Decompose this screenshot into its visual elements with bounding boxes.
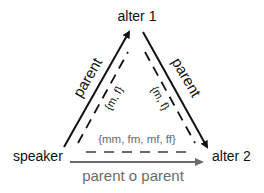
kinship-triangle-diagram: alter 1 speaker alter 2 parent parent pa… <box>0 0 264 193</box>
set-label-left: {m, f} <box>102 84 125 113</box>
node-alter1: alter 1 <box>118 8 157 24</box>
edge-label-right: parent <box>169 55 205 101</box>
edge-label-bottom: parent o parent <box>82 167 185 184</box>
set-label-right: {m, f} <box>149 84 172 113</box>
node-alter2: alter 2 <box>212 148 251 164</box>
set-label-bottom: {mm, fm, mf, ff} <box>98 133 176 145</box>
edge-label-left: parent <box>69 54 105 100</box>
node-speaker: speaker <box>13 148 63 164</box>
